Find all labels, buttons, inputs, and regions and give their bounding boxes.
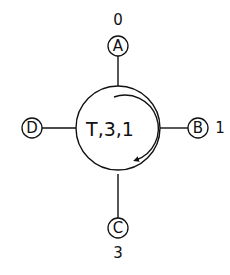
port-c-letter: C <box>113 219 123 237</box>
port-d: D <box>22 118 42 138</box>
port-b: B 1 <box>188 118 225 138</box>
port-a: 0 A <box>108 11 128 56</box>
center-label: T,3,1 <box>85 118 134 140</box>
port-d-letter: D <box>26 119 38 137</box>
port-b-number: 1 <box>215 119 225 137</box>
diagram-canvas: T,3,1 0 A B 1 C 3 D <box>0 0 230 275</box>
port-b-letter: B <box>193 119 203 137</box>
port-c-number: 3 <box>113 244 123 262</box>
center-node: T,3,1 <box>76 86 160 170</box>
port-a-letter: A <box>113 37 124 55</box>
port-c: C 3 <box>108 218 128 262</box>
port-a-number: 0 <box>113 11 123 29</box>
